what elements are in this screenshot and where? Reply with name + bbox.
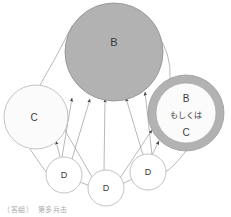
edge-d3-to-b — [126, 98, 143, 155]
node-b-or-c-label-line2: もしくは — [170, 111, 202, 120]
diagram-page: B C B もしくは C D D D （答組） 第 — [0, 0, 231, 217]
node-c[interactable]: C — [4, 85, 68, 149]
node-d2[interactable]: D — [88, 170, 124, 206]
node-b-shape[interactable] — [65, 3, 163, 101]
edge-c-base-to-d1 — [30, 149, 48, 174]
node-b-or-c-label-line3: C — [182, 127, 189, 138]
edge-d2-to-b — [104, 99, 105, 170]
node-d2-label: D — [103, 183, 110, 193]
edge-d1b-to-b — [72, 99, 90, 159]
node-d3-label: D — [145, 167, 152, 177]
node-graph-diagram: B C B もしくは C D D D — [0, 0, 231, 217]
figure-caption: （答組） 第多兵击 — [3, 204, 68, 214]
edge-borc-base-to-d3 — [165, 151, 186, 172]
node-b[interactable]: B — [65, 3, 163, 101]
node-b-or-c-label-line1: B — [183, 93, 190, 104]
node-b-label: B — [110, 36, 117, 48]
node-c-label: C — [30, 112, 37, 123]
edge-d3-to-borc — [152, 141, 159, 155]
node-d1[interactable]: D — [46, 157, 82, 193]
node-b-or-c[interactable]: B もしくは C — [148, 75, 224, 151]
node-d1-label: D — [61, 170, 68, 180]
edge-d1-to-c — [56, 141, 60, 157]
node-d3[interactable]: D — [130, 154, 166, 190]
